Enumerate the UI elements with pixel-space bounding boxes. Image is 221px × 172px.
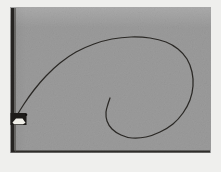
- figure-drawing: [0, 0, 221, 172]
- spiral-trajectory-curve: [16, 37, 193, 138]
- figure-container: [0, 0, 221, 172]
- block-marker: [11, 113, 28, 125]
- wall-bar: [11, 8, 14, 152]
- block-corner-dot: [25, 114, 27, 116]
